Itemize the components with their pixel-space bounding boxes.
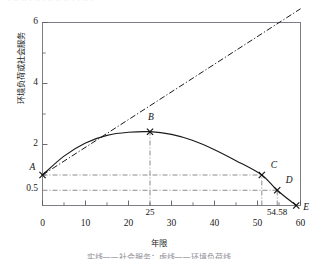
x-tick-label-20: 20 (115, 218, 143, 228)
point-label-C: C (268, 160, 280, 170)
figure-container: · ·· ·· · ·· · ·· ·· ·· · · ·· · 环境负荷或社会… (0, 0, 317, 259)
clipped-header-text: · ·· ·· · ·· · ·· ·· ·· · · ·· · (8, 0, 308, 6)
x-tick-label-30: 30 (158, 218, 186, 228)
point-label-D: D (283, 175, 295, 185)
x-annotation-25: 25 (140, 207, 160, 217)
y-tick-label-0.5: 0.5 (12, 183, 38, 193)
y-tick-label-6: 6 (16, 16, 38, 26)
series-1-line (43, 132, 297, 206)
x-axis-title: 年限 (0, 236, 317, 248)
x-tick-label-10: 10 (72, 218, 100, 228)
x-tick-label-40: 40 (201, 218, 229, 228)
y-tick-label-4: 4 (16, 77, 38, 87)
y-axis-title: 环境负荷或社会服务 (14, 12, 26, 124)
figure-caption: 实线——社会服务；虚线——环境负荷线 (0, 251, 317, 259)
point-label-A: A (27, 162, 39, 172)
point-label-E: E (300, 202, 312, 212)
point-label-B: B (145, 112, 157, 122)
y-tick-label-2: 2 (16, 138, 38, 148)
x-tick-label-60: 60 (287, 218, 315, 228)
x-tick-label-50: 50 (244, 218, 272, 228)
x-annotation-54.58: 54.58 (260, 207, 294, 217)
series-2-line (43, 9, 301, 175)
x-tick-label-0: 0 (29, 218, 57, 228)
